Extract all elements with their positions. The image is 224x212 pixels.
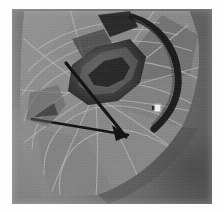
hang-glider-sail	[12, 9, 212, 204]
sail-body	[12, 9, 202, 197]
photo-frame	[0, 0, 224, 212]
photograph-canvas	[12, 9, 212, 204]
highlight-speck	[155, 105, 160, 111]
